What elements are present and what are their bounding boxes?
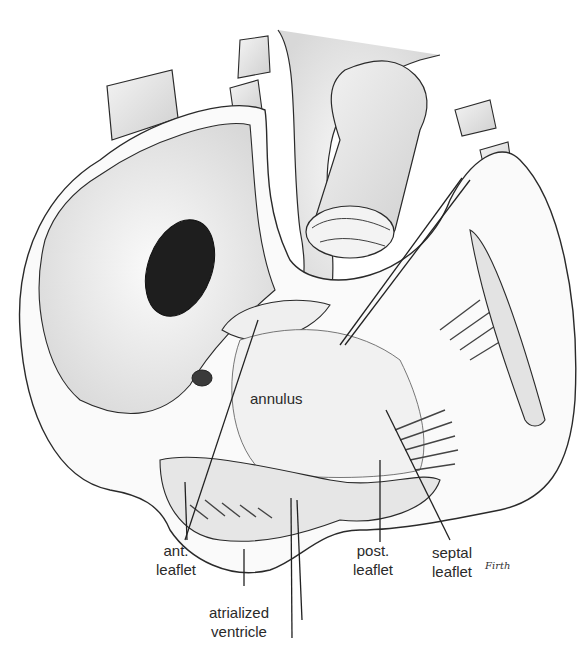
small-opening [192, 370, 212, 386]
label-posterior-leaflet: post. leaflet [353, 541, 393, 579]
label-atrialized-ventricle: atrialized ventricle [209, 603, 269, 641]
heart-illustration [0, 0, 588, 651]
label-septal-leaflet: septal leaflet [432, 543, 472, 581]
artist-signature: Firth [485, 560, 510, 571]
label-annulus: annulus [250, 389, 303, 408]
label-anterior-leaflet: ant. leaflet [156, 541, 196, 579]
